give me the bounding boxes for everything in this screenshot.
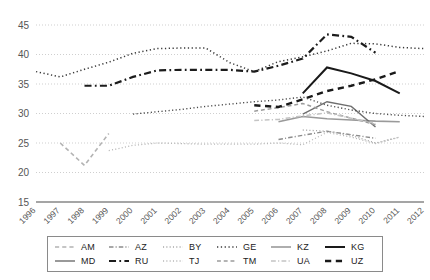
x-axis-tick-label: 2004 [211,205,232,226]
x-axis-tick-label: 2001 [138,205,159,226]
legend-item-KG[interactable]: KG [324,242,378,252]
legend-label-AM: AM [81,242,95,252]
legend-item-AM[interactable]: AM [54,242,108,252]
line-chart: 1520253035404519961997199819992000200120… [0,0,430,280]
legend-label-GE: GE [243,242,256,252]
legend-swatch-GE [216,242,238,252]
y-axis-tick-label: 25 [18,138,30,149]
x-axis-tick-label: 2002 [162,205,183,226]
legend-grid: AMAZBYGEKZKGMDRUTJTMUAUZ [54,240,378,268]
y-axis-tick-label: 35 [18,79,30,90]
legend-label-UA: UA [297,256,310,266]
x-axis-tick-label: 2007 [284,205,305,226]
legend-item-GE[interactable]: GE [216,242,270,252]
x-axis-tick-label: 2006 [259,205,280,226]
legend-item-UZ[interactable]: UZ [324,256,378,266]
x-axis-tick-label: 2005 [235,205,256,226]
legend-label-KG: KG [351,242,364,252]
legend-label-TM: TM [243,256,256,266]
legend-label-UZ: UZ [351,256,363,266]
legend-swatch-TJ [162,256,184,266]
legend-swatch-MD [54,256,76,266]
legend-item-KZ[interactable]: KZ [270,242,324,252]
y-axis-tick-label: 40 [18,49,30,60]
legend-swatch-UZ [324,256,346,266]
x-axis-tick-label: 2012 [405,205,426,226]
x-axis-tick-label: 2000 [114,205,135,226]
series-line-GE [36,43,424,77]
legend-item-RU[interactable]: RU [108,256,162,266]
x-axis-tick-label: 2009 [332,205,353,226]
chart-legend: AMAZBYGEKZKGMDRUTJTMUAUZ [47,236,383,272]
legend-swatch-RU [108,256,130,266]
legend-swatch-BY [162,242,184,252]
legend-item-MD[interactable]: MD [54,256,108,266]
legend-label-BY: BY [189,242,201,252]
y-axis-tick-label: 30 [18,108,30,119]
x-axis-tick-label: 2003 [187,205,208,226]
legend-swatch-UA [270,256,292,266]
x-axis-tick-label: 1996 [17,205,38,226]
legend-label-MD: MD [81,256,95,266]
legend-label-AZ: AZ [135,242,147,252]
legend-swatch-AM [54,242,76,252]
legend-swatch-KZ [270,242,292,252]
series-line-TM [254,103,375,124]
legend-swatch-KG [324,242,346,252]
series-line-AM [60,134,109,166]
y-axis-tick-label: 45 [18,20,30,31]
legend-item-TJ[interactable]: TJ [162,256,216,266]
legend-item-UA[interactable]: UA [270,256,324,266]
legend-label-RU: RU [135,256,148,266]
legend-item-BY[interactable]: BY [162,242,216,252]
legend-item-TM[interactable]: TM [216,256,270,266]
y-axis-tick-label: 15 [18,197,30,208]
legend-label-TJ: TJ [189,256,199,266]
series-line-KG [303,67,400,93]
series-line-RU [85,34,376,85]
x-axis-tick-label: 2011 [381,205,401,225]
x-axis-tick-label: 1999 [90,205,111,226]
legend-label-KZ: KZ [297,242,309,252]
x-axis-tick-label: 1998 [65,205,86,226]
legend-item-AZ[interactable]: AZ [108,242,162,252]
x-axis-tick-label: 2010 [356,205,377,226]
legend-swatch-TM [216,256,238,266]
legend-swatch-AZ [108,242,130,252]
y-axis-tick-label: 20 [18,167,30,178]
x-axis-tick-label: 2008 [308,205,329,226]
x-axis-tick-label: 1997 [41,205,62,226]
